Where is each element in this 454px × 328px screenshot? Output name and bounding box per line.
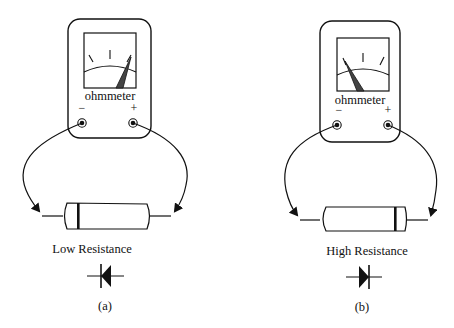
terminal-minus-label: − (79, 101, 86, 115)
ohmmeter-a: ohmmeter − + (68, 19, 151, 138)
terminal-plus-label: + (131, 101, 138, 115)
ohmmeter-b: ohmmeter − + (320, 21, 400, 142)
diode-symbol-a (87, 264, 124, 288)
result-label-b: High Resistance (326, 244, 408, 258)
cathode-band (77, 203, 80, 229)
diode-component-a (42, 203, 171, 229)
meter-label: ohmmeter (85, 89, 137, 103)
diagram-canvas: ohmmeter − + Low Resistance (a) (0, 0, 454, 328)
cathode-band (394, 207, 397, 231)
result-label-a: Low Resistance (52, 242, 132, 256)
diode-body (323, 207, 407, 231)
panel-a: ohmmeter − + Low Resistance (a) (23, 19, 187, 313)
caption-b: (b) (355, 300, 370, 314)
meter-window (337, 38, 389, 91)
panel-b: ohmmeter − + High Resistance (b) (285, 21, 437, 314)
diode-component-b (300, 207, 428, 231)
caption-a: (a) (98, 299, 112, 313)
terminal-plus-label: + (385, 103, 392, 117)
diode-symbol-b (346, 265, 382, 289)
terminal-minus-label: − (336, 103, 343, 117)
